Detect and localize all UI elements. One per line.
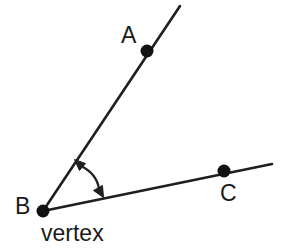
point-marker-b [37, 205, 50, 218]
point-label-b: B [15, 195, 30, 218]
point-label-c: C [220, 182, 237, 205]
geometry-canvas [0, 0, 287, 252]
geometry-figure: A B C vertex [0, 0, 287, 252]
point-label-a: A [121, 24, 136, 47]
vertex-caption: vertex [41, 222, 104, 245]
point-marker-c [218, 165, 231, 178]
point-marker-a [141, 45, 154, 58]
